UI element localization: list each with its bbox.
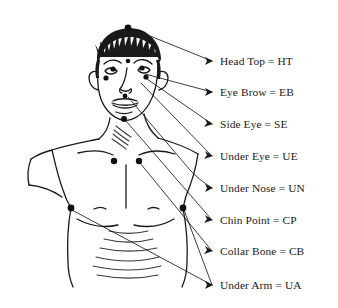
- label-head-top: Head Top = HT: [220, 55, 293, 67]
- label-under-nose: Under Nose = UN: [220, 182, 305, 194]
- point-labels-column: Head Top = HT Eye Brow = EB Side Eye = S…: [0, 0, 338, 308]
- label-side-eye: Side Eye = SE: [220, 118, 288, 130]
- label-collar-bone: Collar Bone = CB: [220, 245, 304, 257]
- label-under-eye: Under Eye = UE: [220, 150, 298, 162]
- label-eye-brow: Eye Brow = EB: [220, 86, 294, 98]
- diagram-page: Head Top = HT Eye Brow = EB Side Eye = S…: [0, 0, 338, 308]
- label-chin-point: Chin Point = CP: [220, 214, 297, 226]
- label-under-arm: Under Arm = UA: [220, 279, 302, 291]
